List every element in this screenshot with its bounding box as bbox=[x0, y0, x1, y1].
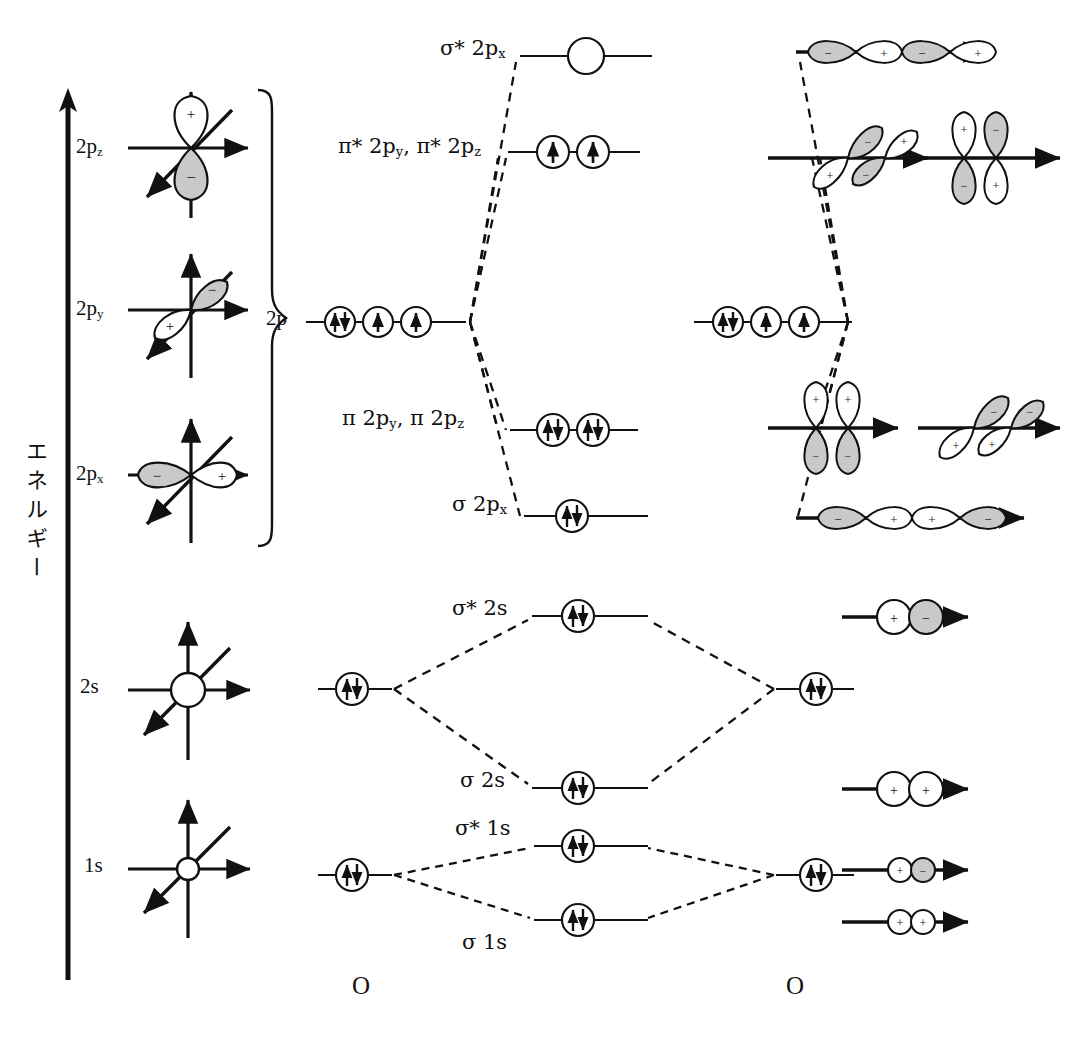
svg-text:−: − bbox=[865, 135, 872, 149]
overlap-pi-star-2py: − + + − bbox=[768, 126, 928, 188]
mo-level-pi-star bbox=[508, 136, 640, 168]
svg-text:+: + bbox=[974, 46, 981, 61]
ao-picture-2px: − + bbox=[128, 419, 248, 543]
mo-diagram-canvas: エネルギー 2pz 2py 2px 2s 1s 2p σ* 2px π* 2py… bbox=[0, 0, 1082, 1048]
atom-level-2s-right bbox=[776, 673, 854, 705]
svg-text:−: − bbox=[824, 46, 831, 61]
svg-text:−: − bbox=[813, 449, 820, 463]
mo-level-sigma-1s bbox=[534, 904, 648, 936]
svg-text:+: + bbox=[961, 123, 968, 137]
ao-picture-1s bbox=[128, 800, 250, 938]
overlap-pi-2pz: + + − − bbox=[768, 382, 898, 474]
svg-text:+: + bbox=[953, 439, 960, 453]
ao-picture-2s bbox=[128, 622, 250, 760]
mo-level-sigma-star-1s bbox=[534, 830, 648, 862]
ao-group-brace bbox=[258, 90, 286, 546]
svg-text:−: − bbox=[918, 46, 925, 61]
svg-text:+: + bbox=[993, 179, 1000, 193]
svg-text:−: − bbox=[922, 611, 930, 626]
svg-text:+: + bbox=[890, 611, 898, 626]
svg-text:+: + bbox=[813, 393, 820, 407]
svg-text:−: − bbox=[153, 468, 161, 484]
overlap-sigma-2px: − + + − bbox=[796, 507, 1024, 529]
svg-text:+: + bbox=[928, 512, 935, 527]
correlation-lines-2p bbox=[470, 62, 848, 516]
svg-text:−: − bbox=[920, 864, 927, 878]
atom-level-2p-right bbox=[694, 307, 852, 337]
svg-text:+: + bbox=[166, 318, 174, 334]
atom-level-1s-left bbox=[318, 859, 392, 891]
svg-text:+: + bbox=[827, 169, 834, 183]
mo-level-sigma-2px bbox=[524, 500, 648, 532]
svg-text:+: + bbox=[845, 393, 852, 407]
svg-text:−: − bbox=[984, 512, 991, 527]
svg-text:−: − bbox=[186, 168, 196, 187]
overlap-sigma-1s: + + bbox=[842, 910, 968, 934]
ao-picture-2py: − + bbox=[128, 254, 248, 378]
svg-text:+: + bbox=[880, 46, 887, 61]
svg-text:−: − bbox=[1027, 405, 1034, 419]
svg-text:+: + bbox=[218, 468, 226, 484]
energy-axis-arrow bbox=[59, 88, 77, 980]
mo-level-pi-bonding bbox=[510, 414, 638, 446]
ao-picture-2pz: + − bbox=[128, 92, 248, 218]
svg-text:+: + bbox=[920, 916, 927, 930]
svg-text:−: − bbox=[208, 282, 216, 298]
svg-text:+: + bbox=[897, 864, 904, 878]
atom-level-2s-left bbox=[318, 673, 392, 705]
mo-level-sigma-2s bbox=[532, 772, 648, 804]
svg-text:−: − bbox=[863, 168, 870, 182]
svg-text:+: + bbox=[890, 783, 898, 798]
overlap-sigma-star-2px: − + − + bbox=[796, 41, 996, 63]
atom-level-1s-right bbox=[776, 859, 854, 891]
overlap-sigma-star-2s: + − bbox=[842, 600, 968, 634]
svg-text:−: − bbox=[993, 123, 1000, 137]
overlap-pi-2py: − + − + bbox=[918, 396, 1060, 458]
svg-text:−: − bbox=[961, 179, 968, 193]
mo-level-sigma-star-2px bbox=[520, 38, 652, 74]
svg-text:+: + bbox=[897, 916, 904, 930]
atom-level-2p-left bbox=[306, 307, 466, 337]
svg-text:+: + bbox=[890, 512, 897, 527]
correlation-lines-2s bbox=[394, 620, 774, 784]
svg-text:−: − bbox=[834, 512, 841, 527]
svg-text:+: + bbox=[901, 135, 908, 149]
svg-text:+: + bbox=[187, 106, 195, 122]
overlap-sigma-star-1s: + − bbox=[842, 858, 968, 882]
svg-text:−: − bbox=[845, 449, 852, 463]
svg-text:+: + bbox=[989, 438, 996, 452]
overlap-pi-star-2pz: + − − + bbox=[922, 112, 1060, 204]
overlap-sigma-2s: + + bbox=[842, 772, 968, 806]
diagram-vectors: + − − + − + bbox=[0, 0, 1082, 1048]
mo-level-sigma-star-2s bbox=[532, 600, 648, 632]
svg-text:+: + bbox=[922, 783, 930, 798]
svg-text:−: − bbox=[991, 405, 998, 419]
